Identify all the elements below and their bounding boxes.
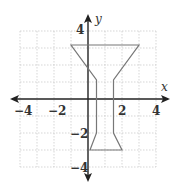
y-tick-label: −4 [70, 161, 88, 175]
coordinate-plane: x y −4 −2 2 4 4 −2 −4 [0, 0, 180, 188]
x-tick-label: 2 [118, 104, 126, 118]
x-tick-label: −4 [14, 104, 32, 118]
y-tick-label: 4 [76, 23, 84, 37]
x-tick-label: 4 [152, 104, 160, 118]
y-axis-label: y [94, 12, 102, 26]
y-tick-label: −2 [70, 127, 88, 141]
x-axis-label: x [161, 80, 168, 94]
x-tick-label: −2 [48, 104, 66, 118]
